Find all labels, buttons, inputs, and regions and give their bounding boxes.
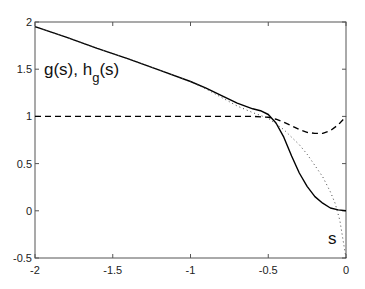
line-chart: -2-1.5-1-0.50 -0.500.511.52 g(s), hg(s) … — [0, 0, 365, 289]
y-tick-label: 1.5 — [17, 63, 32, 75]
y-tick-label: 0 — [26, 205, 32, 217]
y-tick-label: -0.5 — [13, 252, 32, 264]
y-tick-label: 0.5 — [17, 158, 32, 170]
y-tick-label: 1 — [26, 110, 32, 122]
y-tick-label: 2 — [26, 16, 32, 28]
x-tick-label: -2 — [30, 264, 40, 276]
xlabel-s: s — [328, 229, 337, 248]
x-tick-label: 0 — [343, 264, 349, 276]
x-tick-label: -1 — [186, 264, 196, 276]
x-tick-label: -1.5 — [103, 264, 122, 276]
x-tick-label: -0.5 — [259, 264, 278, 276]
plot-area — [35, 22, 346, 258]
